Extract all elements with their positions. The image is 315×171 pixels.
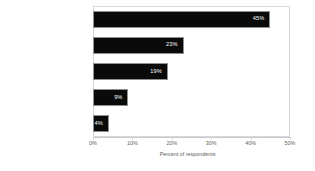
- bar: 9%: [93, 89, 128, 106]
- bar-row: 9%: [93, 89, 290, 106]
- bar-row: 45%: [93, 11, 290, 28]
- x-axis-title: Percent of respondents: [0, 152, 315, 157]
- bar-row: 4%: [93, 115, 290, 132]
- bar: 4%: [93, 115, 109, 132]
- bar-chart: 45%23%19%9%4% Face-to-face trainingOn-th…: [0, 0, 315, 171]
- bar-value-label: 23%: [166, 43, 178, 49]
- x-axis-line: [93, 137, 290, 138]
- x-tick-label: 20%: [166, 141, 177, 146]
- bar-value-label: 45%: [253, 16, 265, 22]
- x-tick-label: 10%: [127, 141, 138, 146]
- x-tick-label: 30%: [206, 141, 217, 146]
- bar: 45%: [93, 11, 270, 28]
- x-tick-label: 0%: [89, 141, 97, 146]
- x-tick-label: 40%: [245, 141, 256, 146]
- bar: 23%: [93, 37, 184, 54]
- bar: 19%: [93, 63, 168, 80]
- x-tick-label: 50%: [285, 141, 296, 146]
- bar-row: 23%: [93, 37, 290, 54]
- bar-value-label: 9%: [114, 95, 122, 101]
- bar-value-label: 4%: [94, 121, 102, 127]
- bar-value-label: 19%: [150, 69, 162, 75]
- bar-row: 19%: [93, 63, 290, 80]
